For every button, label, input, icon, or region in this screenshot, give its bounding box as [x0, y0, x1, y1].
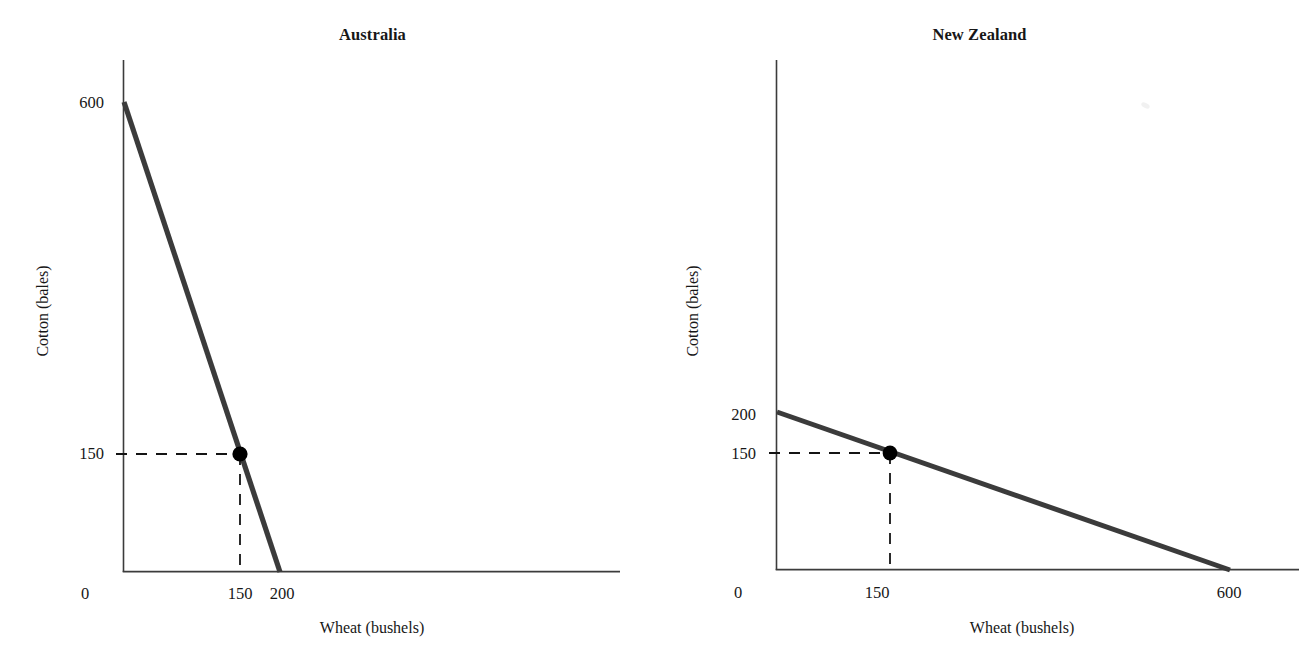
panel-australia: Australia Cotton (bales) Wheat (bushels)… [0, 0, 650, 670]
plot-area-australia [0, 0, 650, 670]
production-point-marker-australia [232, 446, 247, 461]
production-point-marker-newzealand [883, 446, 898, 461]
plot-area-newzealand [650, 0, 1299, 670]
panel-newzealand: New Zealand Cotton (bales) Wheat (bushel… [650, 0, 1299, 670]
ppf-line-australia [124, 102, 280, 572]
ppf-line-newzealand [777, 412, 1230, 570]
figure-ppf-comparison: Australia Cotton (bales) Wheat (bushels)… [0, 0, 1299, 670]
